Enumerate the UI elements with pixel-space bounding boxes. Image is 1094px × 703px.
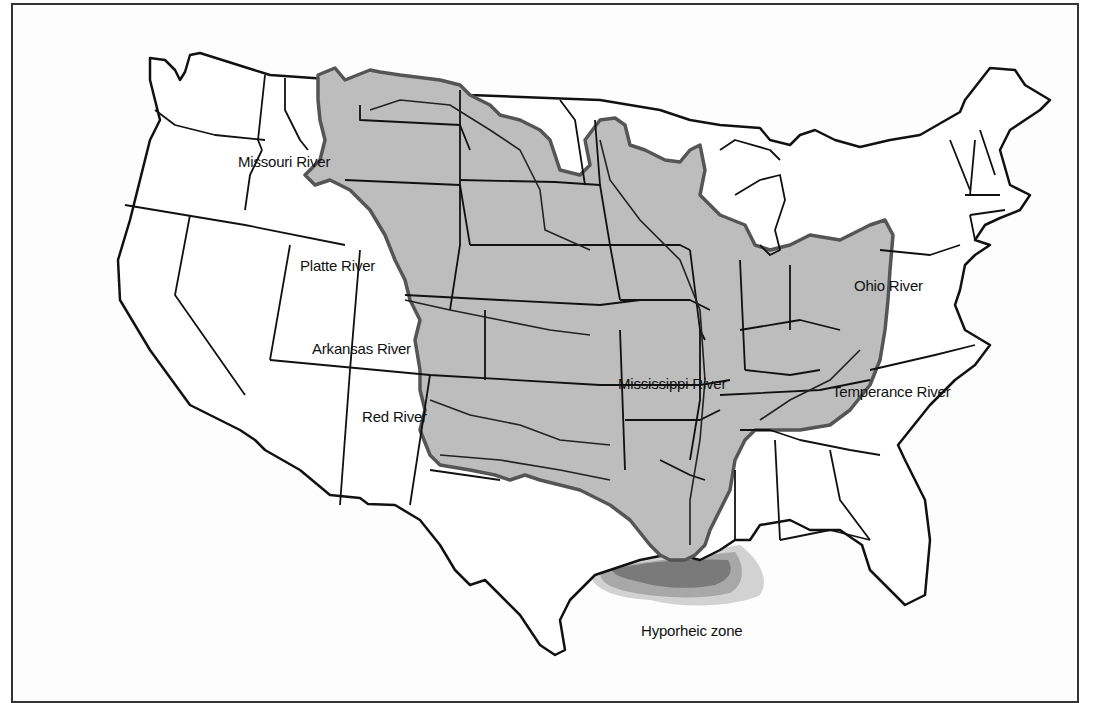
label-mississippi-river: Mississippi River	[618, 375, 726, 392]
label-arkansas-river: Arkansas River	[312, 340, 411, 357]
label-platte-river: Platte River	[300, 257, 375, 274]
label-hyporheic-zone: Hyporheic zone	[641, 622, 742, 639]
label-missouri-river: Missouri River	[238, 153, 330, 170]
label-red-river: Red River	[362, 408, 427, 425]
label-ohio-river: Ohio River	[854, 277, 923, 294]
label-temperance-river: Temperance River	[832, 383, 951, 400]
